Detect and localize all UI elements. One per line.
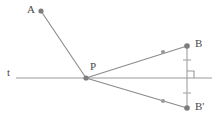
label-point-a: A: [27, 3, 35, 15]
point-dot-b: [184, 43, 190, 49]
geometry-canvas: t A P B B': [0, 0, 218, 118]
label-point-b-prime: B': [195, 100, 204, 112]
midpoint-dot-pb-prime: [161, 99, 165, 103]
segment-pb-prime: [86, 78, 187, 108]
point-dot-a: [38, 8, 43, 13]
label-point-p: P: [90, 60, 96, 72]
right-angle-marker-icon: [187, 71, 194, 78]
label-point-b: B: [195, 37, 202, 49]
geometry-figure: t A P B B': [0, 0, 218, 118]
point-dot-b-prime: [184, 105, 190, 111]
segment-pb: [86, 46, 187, 78]
segment-ap: [41, 11, 86, 78]
point-dot-p: [83, 75, 88, 80]
label-line-t: t: [7, 66, 10, 78]
midpoint-dot-pb: [161, 50, 165, 54]
